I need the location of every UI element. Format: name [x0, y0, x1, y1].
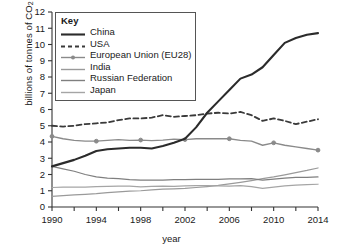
y-axis-tick-label: 5 — [40, 120, 45, 131]
series-marker — [227, 137, 231, 141]
legend-item-european-union-eu28: European Union (EU28) — [61, 49, 195, 61]
legend-item-usa: USA — [61, 38, 195, 50]
series-marker — [94, 139, 98, 143]
legend-item-label: European Union (EU28) — [90, 49, 191, 60]
legend-item-india: India — [61, 61, 195, 73]
legend-swatch-icon — [61, 38, 85, 49]
legend-swatch-icon — [61, 61, 85, 72]
legend-swatch-icon — [61, 72, 85, 83]
y-axis-tick-label: 2 — [40, 169, 45, 180]
legend-swatch-icon — [61, 84, 85, 95]
y-axis-tick-label: 7 — [40, 88, 45, 99]
legend-item-russian-federation: Russian Federation — [61, 72, 195, 84]
y-axis-tick-label: 4 — [40, 136, 45, 147]
x-axis-tick-label: 2010 — [263, 214, 284, 225]
y-axis-tick-label: 9 — [40, 55, 45, 66]
legend-swatch-icon — [61, 26, 85, 37]
legend-swatch-icon — [61, 49, 85, 60]
x-axis-tick-label: 1998 — [130, 214, 151, 225]
y-axis-tick-label: 10 — [34, 39, 45, 50]
y-axis-tick-label: 12 — [34, 6, 45, 17]
y-axis-tick-label: 11 — [35, 23, 45, 34]
y-axis-tick-label: 6 — [40, 104, 45, 115]
legend-item-label: USA — [90, 38, 110, 49]
legend-item-label: China — [90, 26, 115, 37]
legend-item-label: Japan — [90, 84, 116, 95]
legend-item-label: India — [90, 61, 111, 72]
y-axis-tick-label: 3 — [40, 153, 45, 164]
legend-item-label: Russian Federation — [90, 72, 172, 83]
x-axis-tick-label: 1990 — [41, 214, 62, 225]
legend-entries: ChinaUSAEuropean Union (EU28)IndiaRussia… — [56, 26, 195, 95]
series-line-russian-federation — [52, 166, 318, 180]
y-axis-tick-label: 0 — [40, 201, 45, 212]
x-axis-label: year — [0, 233, 343, 244]
y-axis-tick-label: 1 — [40, 185, 45, 196]
series-marker — [139, 138, 143, 142]
series-line-usa — [52, 112, 318, 127]
x-axis-tick-label: 2014 — [307, 214, 328, 225]
chart-legend: Key ChinaUSAEuropean Union (EU28)IndiaRu… — [55, 12, 196, 101]
co2-emissions-line-chart: billions of tonnes of CO2 01234567891011… — [0, 0, 343, 251]
series-line-india — [52, 168, 318, 196]
x-axis-tick-label: 1994 — [86, 214, 107, 225]
legend-title: Key — [61, 15, 195, 26]
series-marker — [316, 148, 320, 152]
series-marker — [272, 141, 276, 145]
series-marker — [50, 134, 54, 138]
y-axis-tick-label: 8 — [40, 71, 45, 82]
legend-item-china: China — [61, 26, 195, 38]
x-axis-tick-label: 2002 — [174, 214, 195, 225]
legend-item-japan: Japan — [61, 84, 195, 96]
x-axis-tick-label: 2006 — [219, 214, 240, 225]
